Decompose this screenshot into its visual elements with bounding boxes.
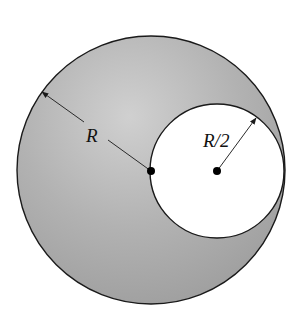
radius-R-half-label: R/2 bbox=[202, 130, 230, 151]
outer-center-dot bbox=[147, 167, 155, 175]
cavity-sphere-diagram: R R/2 bbox=[0, 0, 307, 325]
radius-R-label: R bbox=[85, 125, 98, 146]
cavity-center-dot bbox=[213, 167, 221, 175]
